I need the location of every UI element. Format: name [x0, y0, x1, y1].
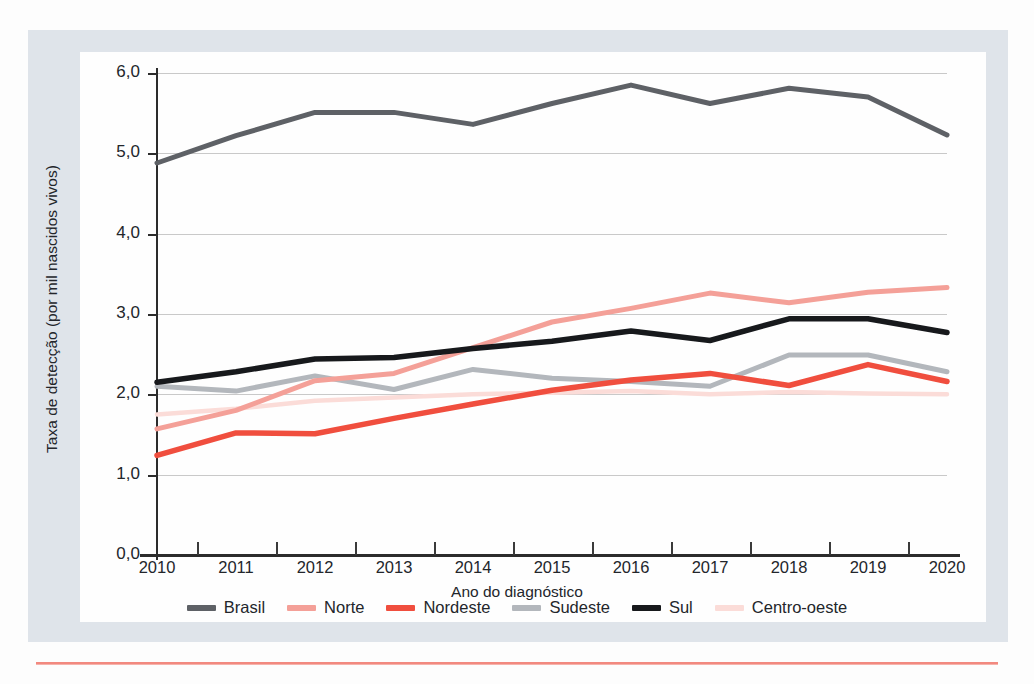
legend-swatch-icon	[715, 605, 744, 611]
legend-swatch-icon	[386, 605, 415, 611]
legend-label: Nordeste	[423, 598, 490, 617]
legend-label: Brasil	[224, 598, 265, 617]
legend-swatch-icon	[187, 605, 216, 611]
legend-item-nordeste[interactable]: Nordeste	[386, 598, 490, 617]
bottom-accent-rule-shadow	[36, 664, 998, 665]
series-line-brasil	[157, 85, 947, 163]
legend-item-sudeste[interactable]: Sudeste	[512, 598, 610, 617]
legend-swatch-icon	[287, 605, 316, 611]
legend-item-brasil[interactable]: Brasil	[187, 598, 265, 617]
legend-label: Sul	[669, 598, 693, 617]
legend-swatch-icon	[632, 605, 661, 611]
legend-item-centro-oeste[interactable]: Centro-oeste	[715, 598, 847, 617]
legend-label: Centro-oeste	[752, 598, 847, 617]
legend-item-norte[interactable]: Norte	[287, 598, 364, 617]
series-line-norte	[157, 288, 947, 429]
data-lines	[0, 0, 1034, 684]
legend-label: Norte	[324, 598, 364, 617]
legend-swatch-icon	[512, 605, 541, 611]
chart-page: 0,01,02,03,04,05,06,0 201020112012201320…	[0, 0, 1034, 684]
legend-label: Sudeste	[549, 598, 610, 617]
legend-item-sul[interactable]: Sul	[632, 598, 693, 617]
chart-legend: BrasilNorteNordesteSudesteSulCentro-oest…	[0, 598, 1034, 617]
y-axis-title: Taxa de detecção (por mil nascidos vivos…	[43, 99, 61, 519]
